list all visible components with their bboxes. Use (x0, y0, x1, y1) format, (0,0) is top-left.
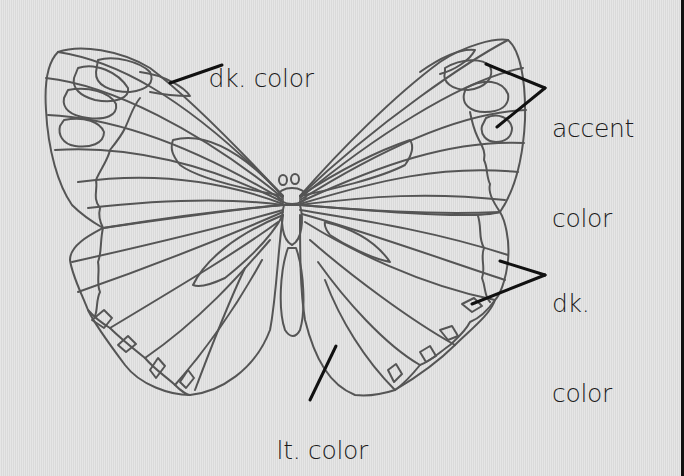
label-hindwing-dark-color: dk. color (552, 229, 612, 469)
left-eye (279, 175, 287, 185)
thorax (282, 205, 302, 245)
label-line-2: color (552, 379, 612, 409)
label-line-1: accent (552, 114, 634, 144)
label-text: dk. color (209, 64, 314, 93)
right-eye (291, 174, 299, 184)
diagram-canvas: dk. color accent color dk. color lt. col… (0, 0, 684, 476)
leader-hindwing-inner (310, 346, 336, 400)
abdomen (281, 248, 304, 336)
label-light-color: lt. color (246, 406, 368, 476)
left-hindwing (70, 205, 283, 395)
label-line-1: dk. (552, 289, 612, 319)
label-forewing-dark-color: dk. color (178, 34, 314, 124)
label-text: lt. color (277, 436, 369, 465)
right-hindwing (300, 205, 508, 395)
